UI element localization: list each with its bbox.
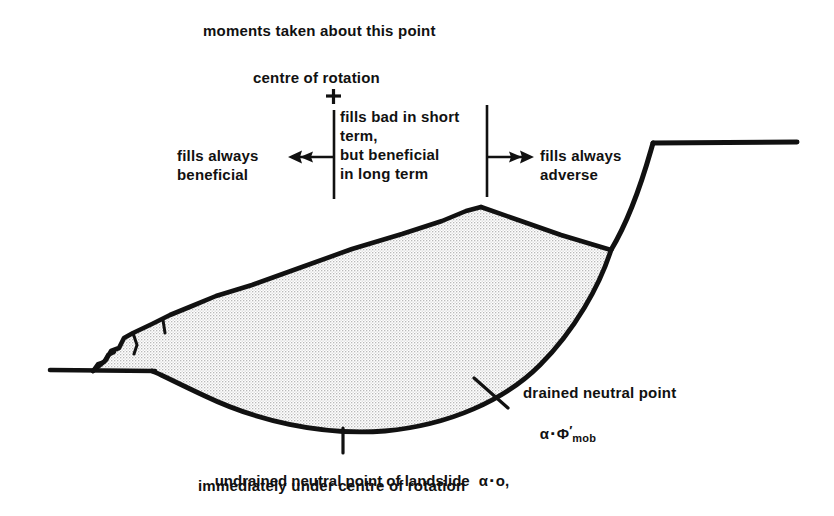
zone-label-right: fills always adverse [540,146,622,184]
undrained-neutral-point-caption-line2: immediately under centre of rotation [198,476,465,495]
drained-neutral-point-formula: α▪Φ′mob [523,406,596,461]
zone-label-left: fills always beneficial [177,146,259,184]
centre-of-rotation-marker [326,89,341,104]
undrained-alpha-symbol: α [470,472,488,489]
arrow-left [288,151,334,164]
zone-label-middle: fills bad in short term, but beneficial … [340,107,459,183]
diagram-canvas [0,0,834,516]
undrained-value: o, [496,472,509,489]
left-ground-line [50,370,155,371]
equals-symbol: ▪ [549,427,557,439]
alpha-symbol: α [540,425,549,442]
right-scarp [611,142,797,250]
phi-symbol: Φ [557,425,569,442]
mob-subscript: mob [572,432,596,444]
moments-note: moments taken about this point [203,21,436,40]
drained-neutral-point-label: drained neutral point [523,383,676,402]
landslide-neutral-point-figure: moments taken about this point centre of… [0,0,834,516]
arrow-right [487,151,534,164]
undrained-equals-symbol: ▪ [488,474,496,486]
centre-of-rotation-label: centre of rotation [253,68,380,87]
